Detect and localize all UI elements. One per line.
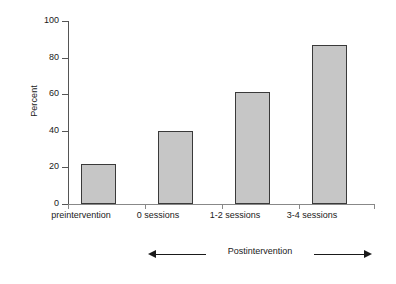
y-axis-line — [68, 21, 69, 204]
bar-preintervention[interactable] — [81, 164, 116, 204]
y-tick-label-40: 40 — [49, 125, 59, 135]
bar-3-4-sessions[interactable] — [312, 45, 347, 204]
y-tick-40: 40 — [62, 131, 68, 132]
bar-1-2-sessions[interactable] — [235, 92, 270, 204]
arrow-right-icon — [364, 250, 372, 258]
y-tick-label-80: 80 — [49, 52, 59, 62]
x-axis-separator — [145, 204, 146, 209]
y-tick-60: 60 — [62, 94, 68, 95]
x-axis-separator — [299, 204, 300, 209]
x-axis-separator — [222, 204, 223, 209]
x-tick-label-3-4-sessions: 3-4 sessions — [261, 210, 363, 220]
y-tick-label-60: 60 — [49, 88, 59, 98]
y-axis-title: Percent — [29, 61, 39, 141]
annotation-line-right — [314, 254, 366, 255]
x-axis-separator — [374, 204, 375, 209]
y-tick-label-100: 100 — [44, 15, 59, 25]
plot-area: 0 20 40 60 80 100 — [68, 21, 375, 204]
y-tick-label-0: 0 — [54, 198, 59, 208]
bar-chart: Percent 0 20 40 60 80 100 — [0, 0, 396, 284]
postintervention-annotation: Postintervention — [148, 246, 372, 262]
y-tick-100: 100 — [62, 21, 68, 22]
x-axis-separator — [68, 204, 69, 209]
y-tick-80: 80 — [62, 58, 68, 59]
y-tick-label-20: 20 — [49, 161, 59, 171]
y-tick-20: 20 — [62, 167, 68, 168]
bar-0-sessions[interactable] — [158, 131, 193, 204]
